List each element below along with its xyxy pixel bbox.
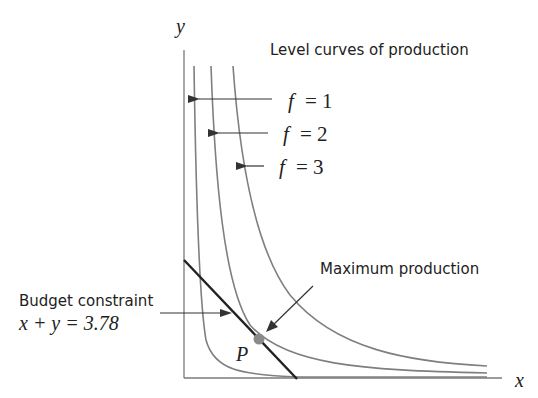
arrow-max [270, 286, 313, 328]
label-f3-var: f [279, 155, 288, 179]
budget-label: Budget constraint [19, 292, 153, 310]
label-f3-eq: = 3 [296, 155, 324, 179]
label-f2-var: f [283, 122, 292, 146]
label-f1-eq: = 1 [305, 89, 333, 113]
diagram: y x P Level curves of production f = 1 f… [0, 0, 538, 398]
y-axis-label: y [174, 15, 185, 38]
max-production-label: Maximum production [320, 260, 479, 278]
budget-equation: x + y = 3.78 [18, 312, 119, 335]
x-axis-label: x [514, 369, 524, 391]
point-label: P [235, 343, 248, 365]
level-curve-f2 [211, 66, 487, 373]
label-f2-eq: = 2 [300, 122, 328, 146]
level-curves-title: Level curves of production [270, 41, 469, 59]
label-f1-var: f [288, 89, 297, 113]
max-point [254, 334, 265, 345]
